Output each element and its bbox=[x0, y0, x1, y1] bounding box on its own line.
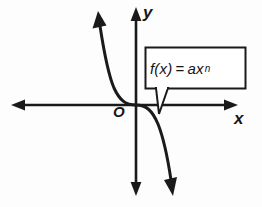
curve-left-arrowhead bbox=[93, 11, 107, 29]
coefficient-text: a bbox=[187, 60, 196, 77]
callout-tail bbox=[156, 88, 168, 114]
graph-canvas bbox=[0, 0, 262, 207]
y-axis bbox=[131, 7, 142, 196]
y-axis-label: y bbox=[143, 4, 152, 21]
y-axis-top-arrowhead bbox=[131, 7, 142, 21]
exponent-text: n bbox=[204, 63, 211, 74]
y-axis-bottom-arrowhead bbox=[131, 182, 142, 196]
origin-label: O bbox=[113, 104, 125, 119]
function-name-text: f(x) bbox=[150, 60, 172, 77]
equation-callout-text: f(x) = a x n bbox=[150, 54, 242, 82]
variable-text: x bbox=[196, 60, 204, 77]
x-axis-left-arrowhead bbox=[11, 100, 25, 111]
curve-right-arrowhead bbox=[164, 177, 177, 196]
equals-sign-text: = bbox=[172, 60, 187, 77]
curve-left-branch bbox=[100, 26, 136, 105]
x-axis-label: x bbox=[234, 110, 243, 127]
curve-right-branch bbox=[136, 105, 171, 180]
power-function-figure: y x O f(x) = a x n bbox=[0, 0, 262, 207]
